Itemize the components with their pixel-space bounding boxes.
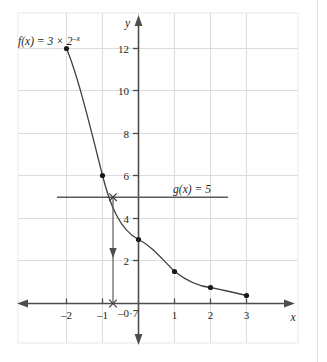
y-tick-label: 8 (124, 128, 130, 140)
y-tick-label: 6 (124, 170, 130, 182)
x-tick-label: 2 (208, 309, 214, 321)
data-point (100, 173, 105, 178)
x-tick-label: –2 (60, 309, 72, 321)
f-function-label-text: f(x) = 3 × 2 (18, 35, 73, 48)
y-tick-label: 4 (124, 213, 130, 225)
exponential-decay-chart: 2 4 6 8 10 12 –2 –1 1 2 3 –0·7 y x f(x) … (0, 0, 327, 362)
x-axis-label: x (289, 311, 296, 323)
data-point (172, 269, 177, 274)
y-axis-label: y (124, 17, 131, 30)
x-tick-label: 1 (172, 309, 178, 321)
plot-panel (18, 13, 298, 343)
x-tick-label: 3 (244, 309, 250, 321)
f-function-label-exponent: –x (71, 34, 80, 43)
y-tick-label: 10 (118, 85, 130, 97)
data-point (136, 237, 141, 242)
figure-container: 2 4 6 8 10 12 –2 –1 1 2 3 –0·7 y x f(x) … (0, 0, 327, 362)
data-point (208, 285, 213, 290)
x-tick-label: –1 (96, 309, 108, 321)
f-function-label: f(x) = 3 × 2–x (18, 34, 80, 48)
y-tick-label: 12 (118, 43, 129, 55)
data-point (244, 293, 249, 298)
g-function-label: g(x) = 5 (173, 183, 211, 196)
y-tick-label: 2 (124, 255, 130, 267)
solution-tick-label: –0·7 (117, 307, 139, 319)
